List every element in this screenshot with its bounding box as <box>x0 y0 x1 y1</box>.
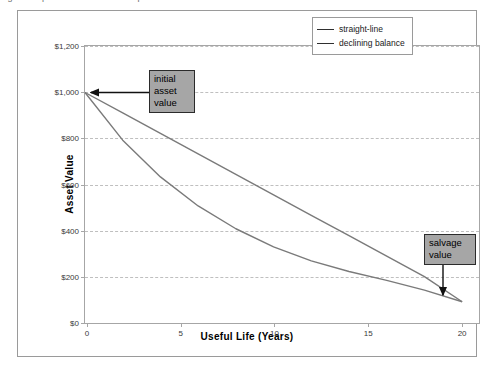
x-tick-mark <box>274 323 275 327</box>
callout-initial-asset-value: initial asset value <box>149 70 195 113</box>
chart-legend: straight-line declining balance <box>312 17 413 55</box>
legend-item-straight-line[interactable]: straight-line <box>317 22 405 36</box>
y-tick-mark <box>81 138 85 139</box>
callout-line: value <box>429 249 471 261</box>
legend-line-icon <box>317 29 334 30</box>
y-tick-mark <box>81 277 85 278</box>
series-line-declining-balance <box>85 93 462 302</box>
clipped-caption: Figure: Depreciation methods comparison <box>0 0 492 3</box>
legend-item-label: declining balance <box>339 38 405 48</box>
x-tick-mark <box>462 323 463 327</box>
x-tick-mark <box>87 323 88 327</box>
gridline-200 <box>85 277 479 278</box>
callout-line: value <box>154 97 190 109</box>
gridline-1200 <box>85 46 479 47</box>
callout-line: initial <box>154 73 190 85</box>
gridline-600 <box>85 185 479 186</box>
y-tick-mark <box>81 46 85 47</box>
y-tick-mark <box>81 92 85 93</box>
plot-area: $1,200 $1,000 $800 $600 $400 $200 <box>84 45 480 324</box>
x-tick-mark <box>181 323 182 327</box>
gridline-1000 <box>85 92 479 93</box>
gridline-400 <box>85 231 479 232</box>
gridline-800 <box>85 138 479 139</box>
figure-frame: Asset Value Useful Life (Years) $1,200 $… <box>17 10 477 357</box>
x-tick-mark <box>368 323 369 327</box>
legend-line-icon <box>317 43 334 44</box>
y-tick-mark <box>81 231 85 232</box>
callout-line: salvage <box>429 237 471 249</box>
y-tick-mark <box>81 185 85 186</box>
annotation-arrows <box>85 46 481 325</box>
legend-item-declining-balance[interactable]: declining balance <box>317 36 405 50</box>
callout-salvage-value: salvage value <box>424 234 476 265</box>
series-line-straight-line <box>85 93 462 302</box>
legend-item-label: straight-line <box>339 24 383 34</box>
data-curves <box>85 46 481 325</box>
callout-line: asset <box>154 85 190 97</box>
y-tick-mark <box>81 323 85 324</box>
